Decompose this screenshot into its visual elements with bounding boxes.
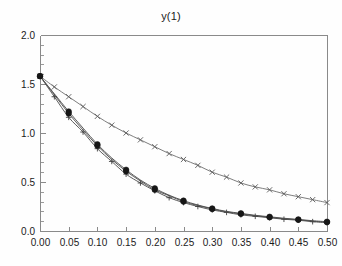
y-tick-label: 1.0 <box>21 128 35 139</box>
marker-lower-curve-dots-b <box>152 186 158 192</box>
x-tick-label: 0.10 <box>88 237 108 248</box>
marker-upper-curve <box>195 163 200 168</box>
marker-upper-curve <box>66 94 71 99</box>
y-tick-label: 2.0 <box>21 30 35 41</box>
marker-upper-curve <box>95 114 100 119</box>
marker-upper-curve <box>167 151 172 156</box>
marker-lower-curve-dots-b <box>324 219 330 225</box>
chart-plot: 0.00.51.01.52.00.000.050.100.150.200.250… <box>0 0 342 266</box>
marker-upper-curve <box>124 130 129 135</box>
marker-upper-curve <box>109 123 114 128</box>
marker-lower-curve-dots-b <box>238 211 244 217</box>
marker-lower-curve-dots-b <box>209 206 215 212</box>
marker-upper-curve <box>80 104 85 109</box>
x-tick-label: 0.45 <box>289 237 309 248</box>
marker-lower-curve-dots-b <box>123 167 129 173</box>
marker-lower-curve-dots-b <box>66 109 72 115</box>
x-tick-label: 0.40 <box>261 237 281 248</box>
marker-upper-curve <box>138 137 143 142</box>
x-tick-label: 0.00 <box>31 237 51 248</box>
x-tick-label: 0.50 <box>318 237 338 248</box>
marker-upper-curve <box>224 175 229 180</box>
marker-upper-curve <box>152 144 157 149</box>
marker-upper-curve <box>52 84 57 89</box>
series-line-upper-curve <box>40 76 327 202</box>
marker-lower-curve-dots-b <box>181 198 187 204</box>
series-upper-curve <box>37 74 329 206</box>
marker-lower-curve-dots-b <box>267 214 273 220</box>
y-tick-label: 1.5 <box>21 79 35 90</box>
marker-upper-curve <box>210 170 215 175</box>
marker-upper-curve <box>181 157 186 162</box>
x-tick-label: 0.30 <box>203 237 223 248</box>
figure-canvas: y(1) 0.00.51.01.52.00.000.050.100.150.20… <box>0 0 342 266</box>
y-tick-label: 0.0 <box>21 226 35 237</box>
y-tick-label: 0.5 <box>21 177 35 188</box>
x-tick-label: 0.20 <box>146 237 166 248</box>
marker-upper-curve <box>238 180 243 185</box>
tick-labels-layer: 0.00.51.01.52.00.000.050.100.150.200.250… <box>21 30 338 248</box>
x-tick-label: 0.05 <box>60 237 80 248</box>
marker-lower-curve-dots-b <box>296 217 302 223</box>
series-lower-curve-dots-b <box>37 73 330 224</box>
x-tick-label: 0.15 <box>117 237 137 248</box>
x-tick-label: 0.35 <box>232 237 252 248</box>
marker-lower-curve-dots-b <box>95 141 101 147</box>
marker-lower-curve-dots-b <box>37 73 43 79</box>
series-layer <box>37 73 330 225</box>
x-tick-label: 0.25 <box>175 237 195 248</box>
